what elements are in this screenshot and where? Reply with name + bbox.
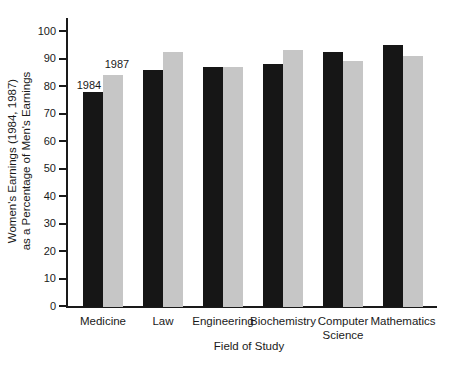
y-tick-label-40: 40 [28,190,56,203]
bar-chart-figure: Women's Earnings (1984, 1987) as a Perce… [0,0,458,367]
y-tick-mark-0 [59,305,66,307]
y-tick-label-50: 50 [28,162,56,175]
y-tick-label-70: 70 [28,107,56,120]
bar-law-1984 [143,70,163,308]
bar-medicine-1984 [83,92,103,308]
y-axis-line [66,18,68,308]
y-tick-mark-50 [59,168,66,170]
bar-computer-science-1987 [343,61,363,307]
bar-engineering-1984 [203,67,223,307]
bar-computer-science-1984 [323,52,343,307]
series-label-1984: 1984 [69,79,109,91]
y-tick-mark-100 [59,30,66,32]
y-tick-label-100: 100 [28,25,56,38]
x-tick-label-mathematics: Mathematics [362,315,444,329]
y-tick-label-30: 30 [28,217,56,230]
bar-medicine-1987 [103,75,123,307]
y-tick-label-60: 60 [28,135,56,148]
y-tick-label-10: 10 [28,272,56,285]
x-axis-title: Field of Study [149,340,349,352]
bar-biochemistry-1984 [263,64,283,307]
y-tick-mark-30 [59,223,66,225]
bar-mathematics-1984 [383,45,403,307]
y-tick-mark-60 [59,140,66,142]
bar-law-1987 [163,52,183,307]
bar-engineering-1987 [223,67,243,307]
y-tick-label-90: 90 [28,52,56,65]
y-tick-mark-20 [59,250,66,252]
y-axis-title-line1: Women's Earnings (1984, 1987) [6,11,20,311]
y-tick-label-0: 0 [28,300,56,313]
series-label-1987: 1987 [97,58,137,70]
y-tick-label-80: 80 [28,80,56,93]
bar-biochemistry-1987 [283,50,303,307]
y-tick-mark-80 [59,85,66,87]
y-tick-mark-40 [59,195,66,197]
y-tick-mark-70 [59,113,66,115]
bar-mathematics-1987 [403,56,423,307]
y-tick-label-20: 20 [28,245,56,258]
y-tick-mark-90 [59,58,66,60]
y-tick-mark-10 [59,278,66,280]
